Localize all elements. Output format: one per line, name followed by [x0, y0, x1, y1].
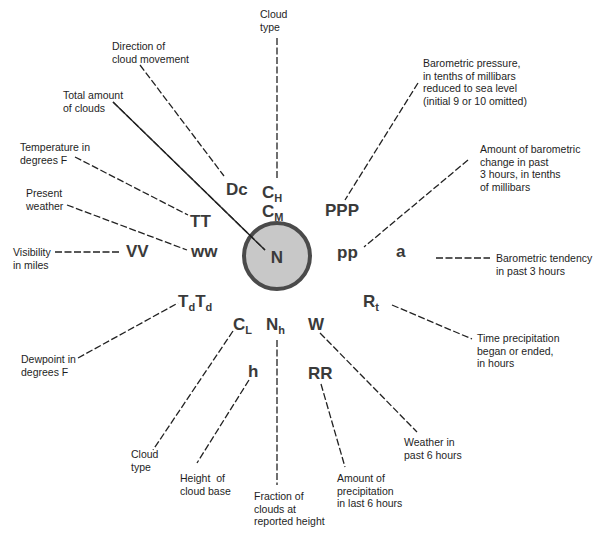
symbol-a: a: [396, 243, 405, 261]
label-precip-amount: Amount of precipitation in last 6 hours: [337, 472, 402, 510]
symbol-tt: TT: [190, 213, 211, 231]
label-cloud-base: Height of cloud base: [180, 472, 231, 497]
symbol-rr: RR: [308, 365, 333, 383]
label-cloud-type-high: Cloud type: [260, 8, 287, 33]
label-direction: Direction of cloud movement: [112, 40, 189, 65]
label-total-clouds: Total amount of clouds: [63, 89, 123, 114]
leader-line-past-weather: [320, 333, 417, 432]
symbol-tdtd: TdTd: [178, 293, 212, 316]
symbol-nh: Nh: [266, 316, 285, 339]
label-pressure-change: Amount of barometric change in past 3 ho…: [480, 143, 580, 193]
center-symbol-n: N: [271, 248, 283, 267]
symbol-pp: pp: [337, 244, 358, 262]
leader-line-precip-time: [392, 305, 472, 339]
label-present-weather: Present weather: [26, 187, 63, 212]
symbol-vv: VV: [126, 243, 149, 261]
symbol-h: h: [248, 363, 258, 381]
leader-line-cloud-type-low: [153, 331, 233, 450]
label-tendency: Barometric tendency in past 3 hours: [496, 252, 592, 277]
leader-line-pressure-change: [364, 160, 468, 247]
leader-line-precip-amount: [321, 384, 345, 467]
leader-line-temperature: [75, 157, 188, 215]
leader-line-cloud-base: [197, 380, 249, 463]
label-dewpoint: Dewpoint in degrees F: [21, 353, 76, 378]
label-fraction: Fraction of clouds at reported height: [254, 490, 325, 528]
label-temperature: Temperature in degrees F: [20, 141, 90, 166]
symbol-w: W: [308, 316, 324, 334]
symbol-ppp: PPP: [325, 202, 359, 220]
leader-line-pressure: [345, 83, 418, 200]
label-pressure: Barometric pressure, in tenths of millib…: [423, 57, 527, 107]
symbol-dc: Dc: [226, 181, 248, 199]
label-cloud-type-low: Cloud type: [131, 448, 158, 473]
leader-line-direction: [140, 65, 224, 176]
leader-line-dewpoint: [78, 303, 178, 358]
label-past-weather: Weather in past 6 hours: [404, 436, 462, 461]
symbol-rt: Rt: [363, 293, 379, 316]
leader-line-total-clouds-overlay: [113, 102, 265, 250]
station-model-diagram: N DcCHCMPPPTTwwVVppaRtTdTdCLNhWhRR Cloud…: [0, 0, 596, 535]
symbol-cm: CM: [262, 203, 283, 226]
label-visibility: Visibility in miles: [13, 246, 51, 271]
label-precip-time: Time precipitation began or ended, in ho…: [477, 332, 559, 370]
symbol-ww: ww: [191, 243, 217, 261]
symbol-cl: CL: [233, 316, 252, 339]
